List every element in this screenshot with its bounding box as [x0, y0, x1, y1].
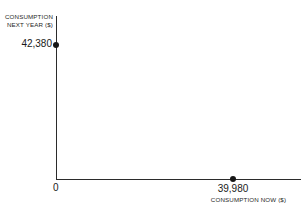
- y-axis-title-line2: NEXT YEAR ($): [0, 21, 53, 29]
- x-axis-tick-label-39980: 39,980: [183, 183, 283, 195]
- x-axis-line: [56, 179, 301, 180]
- y-axis-tick-label-42380: 42,380: [0, 38, 52, 50]
- x-axis-title: CONSUMPTION NOW ($): [196, 196, 301, 204]
- y-axis-title-line1: CONSUMPTION: [0, 13, 53, 21]
- budget-constraint-chart: CONSUMPTION NEXT YEAR ($) 42,380 0 39,98…: [0, 0, 304, 209]
- data-point-y-intercept: [53, 42, 59, 48]
- origin-tick-label: 0: [53, 182, 59, 194]
- y-axis-title: CONSUMPTION NEXT YEAR ($): [0, 13, 53, 30]
- y-axis-line: [56, 16, 57, 180]
- data-point-x-intercept: [230, 176, 236, 182]
